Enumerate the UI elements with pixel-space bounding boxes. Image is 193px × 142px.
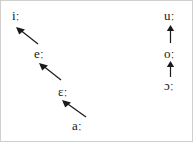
arrow-up-left-icon-a-to-epsilon xyxy=(62,100,87,118)
vowel-chain-shift-diagram: iː eː ɛː aː uː oː ɔː xyxy=(0,0,193,142)
vowel-label-o: oː xyxy=(164,47,175,60)
vowel-label-open-o: ɔː xyxy=(164,79,174,92)
vowel-label-e: eː xyxy=(34,47,44,60)
arrow-up-left-icon-epsilon-to-e xyxy=(39,63,62,81)
arrow-up-left-icon-e-to-i xyxy=(16,27,39,45)
vowel-label-i: iː xyxy=(12,9,20,22)
vowel-label-u: uː xyxy=(164,9,175,22)
arrow-up-icon-open-o-to-o xyxy=(166,61,175,77)
vowel-label-epsilon: ɛː xyxy=(58,85,67,98)
arrow-up-icon-o-to-u xyxy=(166,25,175,43)
vowel-label-a: aː xyxy=(72,119,82,132)
